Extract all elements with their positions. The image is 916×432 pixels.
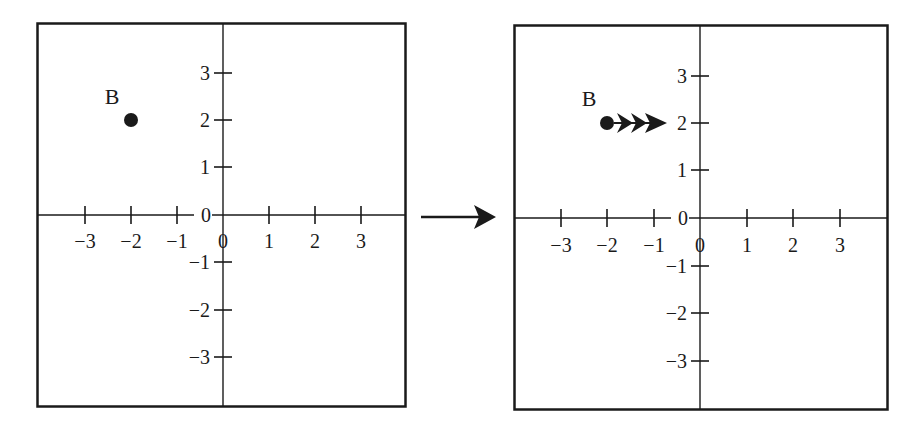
point-b	[600, 116, 614, 130]
x-tick-label: −3	[550, 234, 571, 256]
translation-diagram: −3 −2 −1 0 1 2 3 3 2 1 0 −1 −2 −3 B	[0, 0, 916, 432]
y-tick-label: −3	[189, 346, 210, 368]
point-b-label: B	[105, 84, 120, 109]
coordinate-plane-after: −3 −2 −1 0 1 2 3 3 2 1 0 −1 −2 −3 B	[514, 26, 888, 410]
right-arrow-icon	[421, 205, 496, 229]
point-b-label: B	[582, 86, 597, 111]
y-tick-label: 0	[201, 204, 211, 226]
x-tick-label: 2	[310, 230, 320, 252]
x-tick-label: 3	[835, 234, 845, 256]
x-tick-label: −2	[120, 230, 141, 252]
x-tick-label: 3	[356, 230, 366, 252]
y-tick-label: −1	[666, 255, 687, 277]
point-b	[124, 113, 138, 127]
y-tick-label: 0	[678, 207, 688, 229]
x-tick-label: −3	[74, 230, 95, 252]
y-tick-label: 1	[677, 159, 687, 181]
y-tick-label: −1	[189, 251, 210, 273]
y-tick-label: 3	[200, 62, 210, 84]
y-tick-label: −2	[666, 302, 687, 324]
x-tick-label: 0	[695, 234, 705, 256]
x-tick-label: 2	[788, 234, 798, 256]
y-tick-label: 3	[677, 65, 687, 87]
y-tick-label: 2	[677, 112, 687, 134]
y-tick-label: −3	[666, 350, 687, 372]
x-tick-label: −2	[596, 234, 617, 256]
x-tick-label: −1	[643, 234, 664, 256]
x-tick-label: 1	[742, 234, 752, 256]
y-tick-label: −2	[189, 299, 210, 321]
x-tick-label: 0	[218, 230, 228, 252]
coordinate-plane-before: −3 −2 −1 0 1 2 3 3 2 1 0 −1 −2 −3 B	[37, 24, 406, 407]
y-tick-label: 1	[200, 156, 210, 178]
y-tick-label: 2	[200, 109, 210, 131]
x-tick-label: −1	[166, 230, 187, 252]
x-tick-label: 1	[264, 230, 274, 252]
